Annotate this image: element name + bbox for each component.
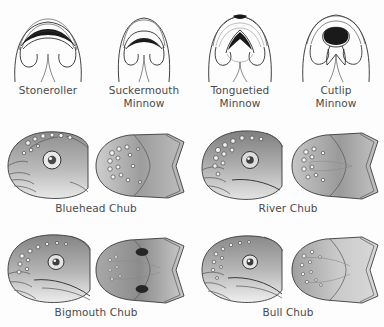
- dorsal-head-view: [96, 134, 184, 198]
- tonguetied-minnow-mouth-illustration: [197, 2, 283, 82]
- chub-label-river-chub: River Chub: [192, 202, 384, 214]
- mouth-label-tonguetied-minnow: Tonguetied Minnow: [192, 84, 288, 109]
- lateral-head-view: [8, 235, 90, 303]
- dorsal-head-view: [292, 133, 378, 199]
- lateral-head-view: [202, 131, 283, 200]
- chub-panel-river-chub: River Chub: [192, 122, 384, 226]
- mouth-label-line2: Minnow: [124, 97, 165, 109]
- chub-panel-bluehead-chub: Bluehead Chub: [0, 122, 192, 226]
- chub-label-bigmouth-chub: Bigmouth Chub: [0, 306, 192, 318]
- suckermouth-minnow-mouth-illustration: [101, 2, 187, 82]
- lateral-head-view: [202, 236, 283, 303]
- river-chub-illustration: [192, 122, 384, 206]
- mouth-diagram-row: Stoneroller Suckermouth: [0, 0, 384, 118]
- fish-identification-figure: Stoneroller Suckermouth: [0, 0, 384, 327]
- mouth-label-line1: Stoneroller: [19, 84, 78, 96]
- mouth-diagram-stoneroller: Stoneroller: [0, 0, 96, 118]
- mouth-label-stoneroller: Stoneroller: [0, 84, 96, 97]
- mouth-label-line2: Minnow: [316, 97, 357, 109]
- dorsal-head-view: [292, 237, 378, 303]
- mouth-label-line1: Tonguetied: [211, 84, 270, 96]
- chub-panel-bigmouth-chub: Bigmouth Chub: [0, 226, 192, 327]
- mouth-label-cutlip-minnow: Cutlip Minnow: [288, 84, 384, 109]
- mouth-diagram-tonguetied-minnow: Tonguetied Minnow: [192, 0, 288, 118]
- mouth-diagram-suckermouth-minnow: Suckermouth Minnow: [96, 0, 192, 118]
- chub-label-bull-chub: Bull Chub: [192, 306, 384, 318]
- chub-panel-bull-chub: Bull Chub: [192, 226, 384, 327]
- mouth-label-line2: Minnow: [220, 97, 261, 109]
- mouth-label-suckermouth-minnow: Suckermouth Minnow: [96, 84, 192, 109]
- bluehead-chub-illustration: [0, 122, 192, 206]
- bigmouth-chub-illustration: [0, 226, 192, 310]
- mouth-label-line1: Suckermouth: [109, 84, 180, 96]
- stoneroller-mouth-illustration: [5, 2, 91, 82]
- chub-label-bluehead-chub: Bluehead Chub: [0, 202, 192, 214]
- bull-chub-illustration: [192, 226, 384, 310]
- cutlip-minnow-mouth-illustration: [293, 2, 379, 82]
- mouth-label-line1: Cutlip: [320, 84, 351, 96]
- mouth-diagram-cutlip-minnow: Cutlip Minnow: [288, 0, 384, 118]
- dorsal-head-view: [96, 238, 184, 303]
- lateral-head-view: [8, 132, 88, 199]
